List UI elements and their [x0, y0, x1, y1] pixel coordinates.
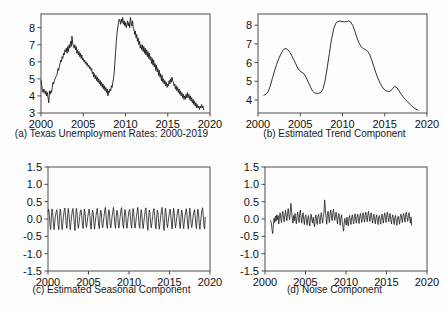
- svg-text:-1.0: -1.0: [23, 248, 42, 260]
- svg-text:0.5: 0.5: [27, 196, 42, 208]
- svg-text:4: 4: [246, 94, 252, 106]
- svg-text:1.5: 1.5: [244, 161, 259, 173]
- svg-text:1.0: 1.0: [27, 178, 42, 190]
- svg-text:7: 7: [246, 38, 252, 50]
- svg-text:8: 8: [29, 22, 35, 34]
- svg-text:0.5: 0.5: [244, 196, 259, 208]
- svg-text:-1.0: -1.0: [240, 248, 259, 260]
- svg-text:6: 6: [29, 56, 35, 68]
- svg-text:-0.5: -0.5: [23, 230, 42, 242]
- svg-text:-1.5: -1.5: [240, 265, 259, 277]
- panel-c-plot: 20002005201020152020-1.5-1.0-0.50.00.51.…: [0, 156, 223, 288]
- svg-text:0.0: 0.0: [27, 213, 42, 225]
- panel-c-caption: (c) Estimated Seasonal Component: [0, 284, 223, 295]
- svg-text:0.0: 0.0: [244, 213, 259, 225]
- svg-text:1.5: 1.5: [27, 161, 42, 173]
- svg-text:5: 5: [246, 75, 252, 87]
- figure-four-panel-decomposition: 20002005201020152020345678 (a) Texas Une…: [0, 0, 446, 312]
- panel-c-seasonal-component: 20002005201020152020-1.5-1.0-0.50.00.51.…: [0, 156, 223, 312]
- panel-a-plot: 20002005201020152020345678: [0, 0, 223, 132]
- panel-d-plot: 20002005201020152020-1.5-1.0-0.50.00.51.…: [223, 156, 446, 288]
- panel-b-plot: 2000200520102015202045678: [223, 0, 446, 132]
- panel-d-caption: (d) Noise Component: [223, 284, 446, 295]
- panel-a-caption: (a) Texas Unemployment Rates: 2000-2019: [0, 128, 223, 139]
- panel-b-caption: (b) Estimated Trend Component: [223, 128, 446, 139]
- svg-text:3: 3: [29, 107, 35, 119]
- svg-text:5: 5: [29, 73, 35, 85]
- svg-text:8: 8: [246, 19, 252, 31]
- svg-text:-0.5: -0.5: [240, 230, 259, 242]
- svg-text:7: 7: [29, 39, 35, 51]
- svg-text:1.0: 1.0: [244, 178, 259, 190]
- svg-text:-1.5: -1.5: [23, 265, 42, 277]
- panel-d-noise-component: 20002005201020152020-1.5-1.0-0.50.00.51.…: [223, 156, 446, 312]
- svg-text:6: 6: [246, 57, 252, 69]
- svg-text:4: 4: [29, 90, 35, 102]
- panel-a-unemployment-rates: 20002005201020152020345678 (a) Texas Une…: [0, 0, 223, 156]
- panel-b-trend-component: 2000200520102015202045678 (b) Estimated …: [223, 0, 446, 156]
